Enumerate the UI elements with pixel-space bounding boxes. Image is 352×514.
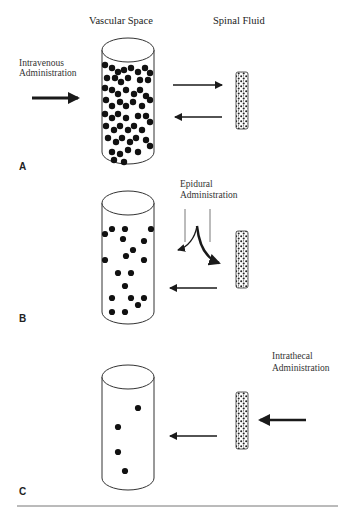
epidural-to-vascular-arrow-icon [178,226,197,250]
vascular-cylinder-icon [102,365,154,490]
route-label-line1: Epidural [180,179,213,189]
spinal-fluid-icon [236,392,248,449]
header-vascular-space: Vascular Space [89,15,153,26]
route-label-line2: Administration [180,190,238,200]
route-label-line1: Intravenous [19,58,64,68]
vascular-cylinder-icon [102,191,154,324]
route-label-line1: Intrathecal [272,351,313,361]
panel-label-a: A [19,161,26,172]
panel-label-b: B [19,313,26,324]
spinal-fluid-icon [236,72,248,129]
panel-label-c: C [19,486,26,497]
vascular-cylinder-icon [102,38,154,165]
route-label-line2: Administration [19,68,77,78]
spinal-fluid-icon [236,231,248,288]
panel-b: Epidural Administration B [19,179,248,324]
panel-a: Intravenous Administration A [19,38,248,172]
route-label-line2: Administration [272,363,330,373]
pharmacokinetics-figure: Vascular Space Spinal Fluid Intravenous … [0,0,352,514]
header-spinal-fluid: Spinal Fluid [213,15,265,26]
epidural-to-csf-arrow-icon [197,226,219,263]
panel-c: Intrathecal Administration C [19,351,330,497]
